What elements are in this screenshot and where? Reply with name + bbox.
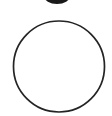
figure-svg: [0, 0, 112, 116]
large-circle-outline-shape: [14, 21, 105, 112]
drawing-canvas: Circle line drawing A large hollow circl…: [0, 0, 112, 116]
